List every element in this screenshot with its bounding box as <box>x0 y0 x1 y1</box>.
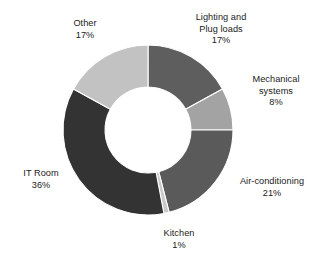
slice-label-kitchen: Kitchen 1% <box>131 228 227 251</box>
slice-label-value: 36% <box>2 180 80 192</box>
slice-label-lighting-and-plug-loads: Lighting and Plug loads 17% <box>169 12 273 47</box>
donut-slice-air-conditioning[interactable] <box>159 130 233 212</box>
donut-slice-group <box>63 45 233 215</box>
slice-label-value: 8% <box>227 97 325 109</box>
chart-page: Lighting and Plug loads 17% Mechanical s… <box>0 0 328 270</box>
slice-label-name: Air-conditioning <box>216 176 328 188</box>
slice-label-other: Other 17% <box>45 18 125 41</box>
slice-label-air-conditioning: Air-conditioning 21% <box>216 176 328 199</box>
donut-slice-it-room[interactable] <box>63 89 164 215</box>
slice-label-name: Kitchen <box>131 228 227 240</box>
slice-label-name-line2: systems <box>227 86 325 98</box>
slice-label-name: IT Room <box>2 168 80 180</box>
slice-label-name-line2: Plug loads <box>169 24 273 36</box>
slice-label-name: Mechanical <box>227 74 325 86</box>
slice-label-value: 17% <box>45 30 125 42</box>
slice-label-value: 21% <box>216 188 328 200</box>
slice-label-mechanical-systems: Mechanical systems 8% <box>227 74 325 109</box>
slice-label-name: Lighting and <box>169 12 273 24</box>
slice-label-name: Other <box>45 18 125 30</box>
slice-label-value: 1% <box>131 240 227 252</box>
slice-label-value: 17% <box>169 35 273 47</box>
slice-label-it-room: IT Room 36% <box>2 168 80 191</box>
